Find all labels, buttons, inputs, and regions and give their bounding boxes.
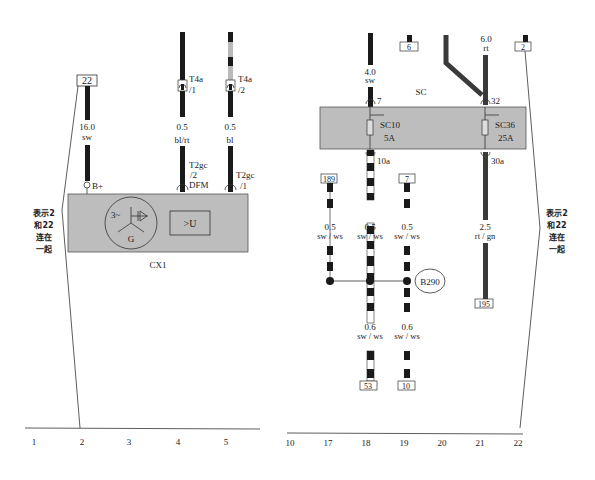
wire-10a-striped [367, 150, 374, 381]
wiring-diagram: 22 16.0 sw B+ T4a /1 0.5 bl/rt T2gc /2 D… [0, 0, 595, 480]
svg-text:SC10: SC10 [380, 120, 401, 130]
svg-text:0.5: 0.5 [176, 122, 188, 132]
svg-text:/1: /1 [189, 85, 196, 95]
svg-text:sw / ws: sw / ws [394, 331, 420, 341]
svg-text:/2: /2 [238, 85, 245, 95]
svg-text:17: 17 [324, 438, 334, 448]
svg-text:2: 2 [521, 43, 525, 52]
svg-text:和22: 和22 [34, 220, 53, 230]
svg-text:rt: rt [483, 43, 489, 53]
ref-box-6: 6 [400, 35, 418, 52]
svg-text:32: 32 [491, 96, 500, 106]
note-left: 表示2 和22 连在 一起 [32, 208, 55, 254]
svg-text:195: 195 [478, 300, 490, 309]
grid-right-labels: 10 17 18 19 20 21 22 [286, 438, 523, 448]
svg-text:T2gc: T2gc [236, 170, 255, 180]
wire-7: 7 [399, 174, 415, 378]
svg-text:/1: /1 [240, 181, 247, 191]
svg-text:3: 3 [127, 437, 132, 447]
svg-text:连在: 连在 [549, 232, 565, 242]
svg-text:bl: bl [226, 135, 234, 145]
wire-b-plus: 16.0 sw B+ [79, 86, 103, 195]
svg-text:sw / ws: sw / ws [394, 231, 420, 241]
svg-text:19: 19 [400, 438, 410, 448]
wire-4-0-sw: 4.0 sw 7 [364, 33, 382, 107]
svg-text:一起: 一起 [549, 244, 566, 254]
svg-text:0.5: 0.5 [224, 122, 236, 132]
svg-text:和22: 和22 [547, 220, 566, 230]
svg-text:22: 22 [514, 438, 523, 448]
svg-text:3~: 3~ [111, 210, 121, 220]
grid-left-labels: 1 2 3 4 5 [32, 437, 229, 447]
svg-text:22: 22 [82, 75, 92, 86]
svg-text:189: 189 [323, 175, 335, 184]
svg-text:5: 5 [224, 437, 229, 447]
svg-text:16.0: 16.0 [79, 122, 95, 132]
svg-text:30a: 30a [491, 156, 504, 166]
wire-dfm: T4a /1 0.5 bl/rt T2gc /2 DFM [175, 32, 209, 192]
svg-text:18: 18 [362, 438, 372, 448]
splice-b290: B290 [326, 269, 445, 293]
connection-line-left [62, 86, 78, 210]
connection-line-right-lower [520, 228, 540, 428]
svg-text:sw: sw [365, 75, 376, 85]
svg-text:7: 7 [405, 175, 409, 184]
svg-text:CX1: CX1 [149, 260, 166, 270]
svg-text:表示2: 表示2 [545, 208, 568, 218]
wire-6-0-rt: 6.0 rt 32 [446, 34, 500, 106]
svg-text:一起: 一起 [36, 244, 53, 254]
connection-line-right [525, 51, 540, 228]
svg-text:10: 10 [402, 382, 410, 391]
svg-text:T4a: T4a [189, 74, 203, 84]
svg-text:DFM: DFM [189, 180, 209, 190]
svg-text:rt / gn: rt / gn [475, 231, 496, 241]
svg-text:25A: 25A [498, 133, 514, 143]
wire-labels-low: 0.6 sw / ws 0.6 sw / ws [357, 322, 420, 341]
wire-bl: T4a /2 0.5 bl T2gc /1 [224, 32, 254, 192]
svg-text:20: 20 [438, 438, 448, 448]
grid-line-left [25, 428, 260, 429]
svg-text:B+: B+ [92, 181, 103, 191]
svg-text:sw / ws: sw / ws [317, 231, 343, 241]
svg-text:7: 7 [377, 96, 382, 106]
ref-box-10: 10 [398, 381, 415, 391]
grid-line-right [287, 433, 523, 434]
ref-box-53: 53 [360, 381, 377, 391]
svg-text:21: 21 [476, 438, 485, 448]
svg-text:B290: B290 [420, 277, 440, 287]
wire-30a: 2.5 rt / gn 195 [475, 152, 496, 309]
svg-text:4: 4 [176, 437, 181, 447]
svg-text:>U: >U [184, 218, 198, 229]
note-right: 表示2 和22 连在 一起 [545, 208, 568, 254]
svg-text:bl/rt: bl/rt [175, 135, 190, 145]
svg-text:T2gc: T2gc [189, 160, 208, 170]
svg-text:sw / ws: sw / ws [357, 331, 383, 341]
svg-text:SC36: SC36 [495, 120, 516, 130]
svg-text:sw: sw [82, 132, 93, 142]
svg-text:6: 6 [407, 43, 411, 52]
svg-text:sw / ws: sw / ws [357, 231, 383, 241]
svg-text:10: 10 [286, 438, 296, 448]
svg-text:G: G [128, 234, 135, 244]
ref-box-2: 2 [515, 35, 531, 52]
fuse-box-sc: SC10 5A SC36 25A [320, 107, 526, 149]
svg-text:连在: 连在 [36, 232, 52, 242]
svg-text:表示2: 表示2 [32, 208, 55, 218]
component-cx1: 3~ G >U CX1 [68, 194, 248, 270]
svg-text:/2: /2 [190, 170, 197, 180]
svg-text:T4a: T4a [238, 74, 252, 84]
svg-text:1: 1 [32, 437, 37, 447]
wire-labels-mid: 0.5 sw / ws 0.5 sw / ws 0.5 sw / ws [317, 222, 420, 241]
fuse-box-label: SC [415, 87, 426, 97]
svg-text:53: 53 [364, 382, 372, 391]
svg-text:2: 2 [80, 437, 85, 447]
ref-box-22: 22 [77, 75, 97, 86]
svg-text:10a: 10a [377, 156, 390, 166]
svg-text:5A: 5A [384, 133, 396, 143]
